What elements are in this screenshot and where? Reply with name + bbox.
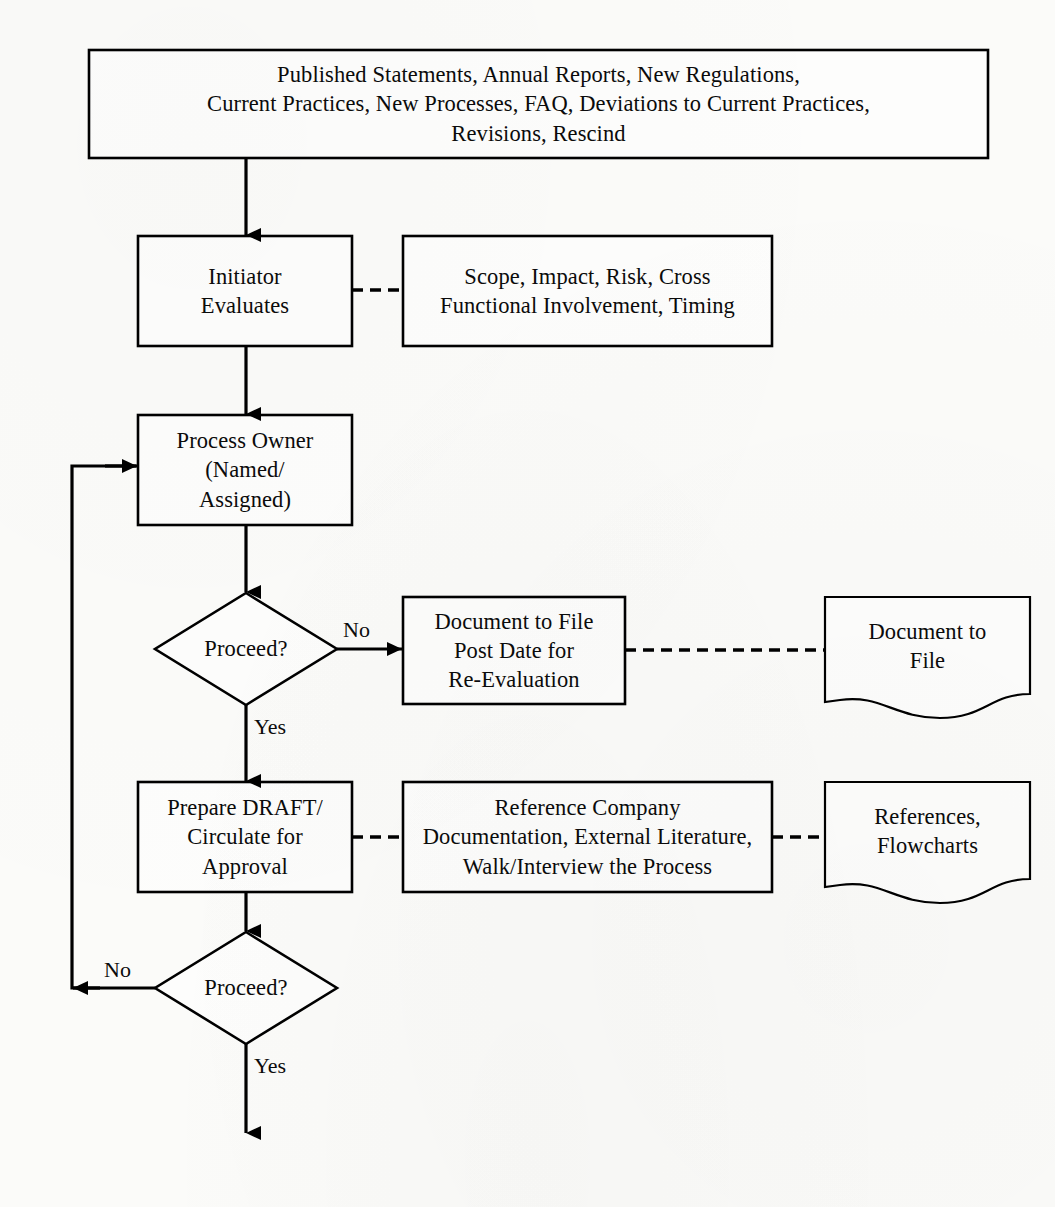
process-owner-line-3: Assigned) [199, 485, 291, 514]
draft-criteria-line-1: Reference Company [495, 793, 681, 822]
references-artifact-line-2: Flowcharts [877, 831, 978, 860]
document-action-line-2: Post Date for [454, 636, 574, 665]
node-initiator-evaluates-label: Initiator Evaluates [138, 236, 352, 346]
initiator-criteria-line-2: Functional Involvement, Timing [440, 291, 735, 320]
edge-label-decision-one-no: No [343, 619, 370, 641]
draft-criteria-line-3: Walk/Interview the Process [463, 852, 712, 881]
edge-decision-two-no-loopback [72, 466, 155, 988]
node-document-to-file-action-label: Document to File Post Date for Re-Evalua… [403, 597, 625, 704]
references-artifact-line-1: References, [874, 802, 981, 831]
prepare-draft-line-2: Circulate for [187, 822, 303, 851]
process-owner-line-2: (Named/ [205, 455, 284, 484]
edge-label-decision-two-yes: Yes [254, 1055, 286, 1077]
prepare-draft-line-1: Prepare DRAFT/ [167, 793, 323, 822]
initiator-evaluates-line-1: Initiator [208, 262, 281, 291]
source-inputs-line-1: Published Statements, Annual Reports, Ne… [277, 60, 800, 89]
node-decision-one-label: Proceed? [155, 623, 337, 675]
flowchart-canvas: Published Statements, Annual Reports, Ne… [0, 0, 1055, 1207]
prepare-draft-line-3: Approval [202, 852, 288, 881]
document-action-line-3: Re-Evaluation [448, 665, 579, 694]
edge-label-decision-two-no: No [104, 959, 131, 981]
process-owner-line-1: Process Owner [177, 426, 314, 455]
node-references-artifact-label: References, Flowcharts [825, 785, 1030, 877]
node-decision-two-label: Proceed? [155, 962, 337, 1014]
document-artifact-line-1: Document to [869, 617, 987, 646]
node-initiator-criteria-label: Scope, Impact, Risk, Cross Functional In… [403, 236, 772, 346]
edge-label-decision-one-yes: Yes [254, 716, 286, 738]
node-prepare-draft-label: Prepare DRAFT/ Circulate for Approval [138, 782, 352, 892]
node-document-to-file-artifact-label: Document to File [825, 600, 1030, 692]
initiator-evaluates-line-2: Evaluates [201, 291, 289, 320]
document-artifact-line-2: File [910, 646, 945, 675]
node-draft-criteria-label: Reference Company Documentation, Externa… [403, 782, 772, 892]
node-source-inputs-label: Published Statements, Annual Reports, Ne… [89, 50, 988, 158]
node-process-owner-label: Process Owner (Named/ Assigned) [138, 415, 352, 525]
initiator-criteria-line-1: Scope, Impact, Risk, Cross [464, 262, 710, 291]
document-action-line-1: Document to File [434, 607, 593, 636]
source-inputs-line-3: Revisions, Rescind [451, 119, 625, 148]
decision-two-line-1: Proceed? [204, 973, 287, 1002]
draft-criteria-line-2: Documentation, External Literature, [423, 822, 753, 851]
source-inputs-line-2: Current Practices, New Processes, FAQ, D… [207, 89, 870, 118]
decision-one-line-1: Proceed? [204, 634, 287, 663]
